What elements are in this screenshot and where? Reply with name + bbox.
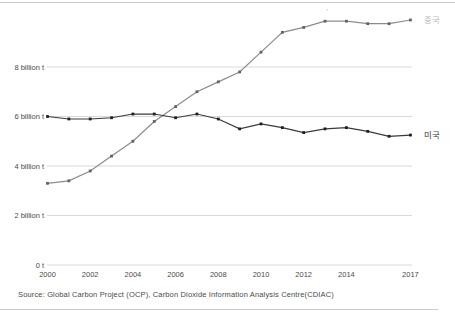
series-marker bbox=[409, 19, 412, 22]
series-marker bbox=[132, 140, 135, 143]
series-marker bbox=[366, 130, 369, 133]
series-marker bbox=[345, 20, 348, 23]
emissions-line-chart: 0 t2 billion t4 billion t6 billion t8 bi… bbox=[0, 0, 455, 288]
series-marker bbox=[174, 116, 177, 119]
y-tick-label: 2 billion t bbox=[14, 211, 45, 220]
y-tick-label: 4 billion t bbox=[14, 162, 45, 171]
series-marker bbox=[260, 123, 263, 126]
series-marker bbox=[345, 126, 348, 129]
series-marker bbox=[302, 131, 305, 134]
series-marker bbox=[388, 135, 391, 138]
series-marker bbox=[260, 51, 263, 54]
series-line bbox=[48, 114, 411, 136]
series-marker bbox=[238, 71, 241, 74]
series-end-label: 중국 bbox=[424, 15, 440, 25]
series-marker bbox=[366, 22, 369, 25]
series-marker bbox=[281, 126, 284, 129]
series-marker bbox=[132, 113, 135, 116]
series-marker bbox=[196, 90, 199, 93]
series-marker bbox=[67, 118, 70, 121]
x-tick-label: 2002 bbox=[82, 270, 99, 279]
series-marker bbox=[324, 127, 327, 130]
series-marker bbox=[217, 80, 220, 83]
x-tick-label: 2004 bbox=[125, 270, 142, 279]
figure-frame: 0 t2 billion t4 billion t6 billion t8 bi… bbox=[0, 0, 455, 316]
series-marker bbox=[196, 113, 199, 116]
series-marker bbox=[302, 26, 305, 29]
series-marker bbox=[217, 118, 220, 121]
y-tick-label: 8 billion t bbox=[14, 63, 45, 72]
series-end-label: 미국 bbox=[424, 130, 440, 140]
series-marker bbox=[67, 179, 70, 182]
series-marker bbox=[89, 170, 92, 173]
bottom-divider bbox=[0, 309, 438, 310]
x-tick-label: 2012 bbox=[295, 270, 312, 279]
series-marker bbox=[46, 182, 49, 185]
series-marker bbox=[153, 113, 156, 116]
series-marker bbox=[238, 127, 241, 130]
series-marker bbox=[46, 115, 49, 118]
x-tick-label: 2000 bbox=[39, 270, 56, 279]
x-tick-label: 2006 bbox=[167, 270, 184, 279]
series-line bbox=[48, 20, 411, 183]
y-tick-label: 6 billion t bbox=[14, 112, 45, 121]
series-marker bbox=[174, 105, 177, 108]
x-tick-label: 2014 bbox=[338, 270, 355, 279]
series-marker bbox=[89, 118, 92, 121]
annotation-mark: ' bbox=[326, 8, 327, 15]
series-marker bbox=[388, 22, 391, 25]
series-marker bbox=[324, 20, 327, 23]
x-tick-label: 2010 bbox=[253, 270, 270, 279]
series-marker bbox=[153, 120, 156, 123]
y-tick-label: 0 t bbox=[36, 261, 45, 270]
x-tick-label: 2017 bbox=[402, 270, 419, 279]
source-citation: Source: Global Carbon Project (OCP), Car… bbox=[18, 290, 334, 299]
series-marker bbox=[409, 134, 412, 137]
series-marker bbox=[110, 116, 113, 119]
x-tick-label: 2008 bbox=[210, 270, 227, 279]
series-marker bbox=[110, 155, 113, 158]
series-marker bbox=[281, 31, 284, 34]
